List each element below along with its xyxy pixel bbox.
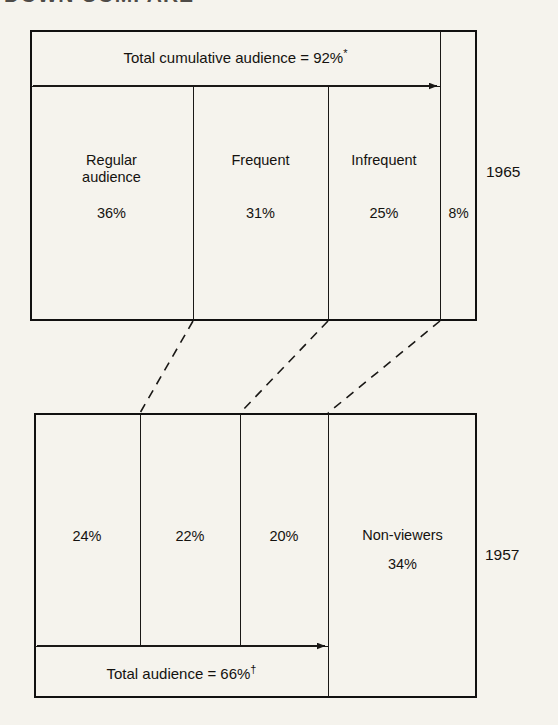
bar-1965-divider-1	[193, 86, 194, 320]
figure-container: DOWN COMPARE Total cumulative audience =…	[0, 0, 558, 725]
bar-1957-banner-text: Total audience = 66%†	[35, 665, 328, 683]
bar-1965-segment-1-value: 31%	[194, 205, 327, 222]
bar-1957-segment-3-value: 34%	[329, 556, 476, 573]
bar-1965-segment-1-label: Frequent	[194, 152, 327, 169]
cropped-header-text-value: DOWN COMPARE	[2, 0, 194, 2]
bar-1957-segment-0-value: 24%	[35, 528, 139, 545]
bar-1957-banner-marker: †	[250, 663, 256, 675]
bar-1965-segment-3-value: 8%	[441, 205, 476, 222]
bar-1957-segment-3-label: Non-viewers	[329, 527, 476, 544]
bar-1957-segment-2-value: 20%	[241, 528, 327, 545]
connector-line-3	[328, 321, 440, 413]
bar-1965-banner-separator	[31, 86, 440, 87]
bar-1965-segment-2-value: 25%	[329, 205, 439, 222]
bar-1965-banner-marker: *	[343, 47, 347, 59]
bar-1957-year-label: 1957	[485, 546, 519, 564]
bar-1957-banner-label: Total audience = 66%	[107, 665, 251, 682]
connector-line-2	[240, 321, 328, 413]
bar-1965-segment-0-label: Regular audience	[31, 152, 192, 186]
bar-1957-banner-separator	[35, 646, 328, 647]
bar-1965-year-label: 1965	[486, 163, 520, 181]
bar-1965-banner-text: Total cumulative audience = 92%*	[31, 49, 440, 67]
cropped-header-text: DOWN COMPARE	[0, 0, 558, 14]
bar-1965-segment-2-label: Infrequent	[329, 152, 439, 169]
connector-line-1	[140, 321, 193, 413]
bar-1965-divider-3	[440, 31, 441, 320]
bar-1965-segment-0-value: 36%	[31, 205, 192, 222]
bar-1957-segment-1-value: 22%	[141, 528, 239, 545]
bar-1965-banner-label: Total cumulative audience = 92%	[123, 49, 343, 66]
bar-1965-divider-2	[328, 86, 329, 320]
